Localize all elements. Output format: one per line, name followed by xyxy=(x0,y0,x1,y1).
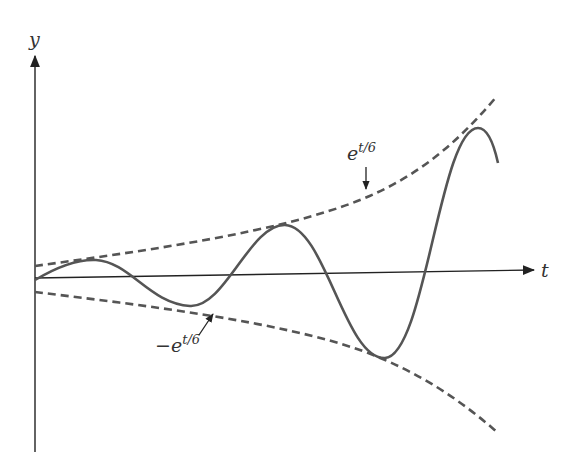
t-axis-label: t xyxy=(541,259,549,281)
upper-envelope-curve xyxy=(35,96,497,266)
lower-envelope-label: −et/6 xyxy=(155,332,200,356)
lower-envelope-pointer-arrow xyxy=(199,314,213,335)
t-axis-line xyxy=(35,270,534,278)
upper-envelope-label: et/6 xyxy=(347,140,376,164)
lower-envelope-curve xyxy=(35,292,497,432)
y-axis-label: y xyxy=(28,28,40,50)
diagram-canvas: y t et/6 −et/6 xyxy=(0,0,574,467)
lower-envelope-annotation: −et/6 xyxy=(155,314,213,356)
t-axis: t xyxy=(35,259,549,281)
y-axis: y xyxy=(28,28,40,452)
upper-envelope-annotation: et/6 xyxy=(347,140,376,189)
